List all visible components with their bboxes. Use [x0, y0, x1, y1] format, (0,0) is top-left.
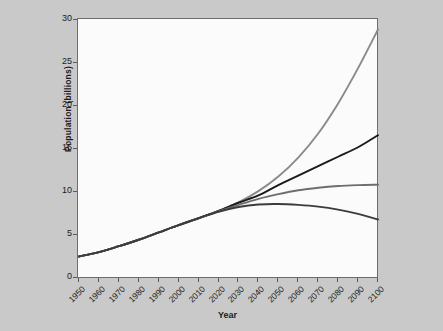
x-tick-mark [198, 278, 199, 282]
figure-canvas: Population (billions) Year 051015202530 … [0, 0, 443, 331]
y-tick-mark [73, 277, 77, 278]
x-tick-mark [257, 278, 258, 282]
x-tick-label: 2000 [163, 284, 187, 308]
x-tick-mark [357, 278, 358, 282]
x-tick-mark [337, 278, 338, 282]
x-tick-label: 2080 [322, 284, 346, 308]
x-tick-mark [377, 278, 378, 282]
x-tick-mark [317, 278, 318, 282]
x-tick-label: 1970 [103, 284, 127, 308]
y-tick-mark [73, 148, 77, 149]
x-tick-labels: 1950196019701980199020002010202020302040… [0, 0, 443, 331]
x-tick-label: 2100 [362, 284, 386, 308]
x-tick-label: 2040 [242, 284, 266, 308]
x-tick-mark [98, 278, 99, 282]
x-tick-mark [218, 278, 219, 282]
x-tick-mark [178, 278, 179, 282]
x-tick-mark [297, 278, 298, 282]
y-tick-mark [73, 105, 77, 106]
y-tick-mark [73, 234, 77, 235]
x-tick-label: 2020 [203, 284, 227, 308]
x-tick-label: 2070 [302, 284, 326, 308]
x-tick-label: 1990 [143, 284, 167, 308]
y-tick-mark [73, 62, 77, 63]
x-tick-label: 2060 [282, 284, 306, 308]
y-tick-mark [73, 191, 77, 192]
x-tick-label: 1960 [83, 284, 107, 308]
x-tick-mark [277, 278, 278, 282]
x-tick-label: 2030 [222, 284, 246, 308]
x-tick-label: 1980 [123, 284, 147, 308]
x-tick-label: 1950 [63, 284, 87, 308]
x-tick-label: 2010 [183, 284, 207, 308]
y-tick-mark [73, 19, 77, 20]
x-tick-mark [118, 278, 119, 282]
x-tick-mark [158, 278, 159, 282]
x-tick-mark [138, 278, 139, 282]
x-tick-label: 2090 [342, 284, 366, 308]
x-tick-mark [78, 278, 79, 282]
x-tick-mark [237, 278, 238, 282]
x-tick-label: 2050 [262, 284, 286, 308]
